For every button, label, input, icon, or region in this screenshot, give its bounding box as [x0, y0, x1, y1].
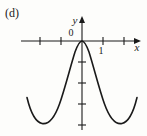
graph-plot: 0 1 y x: [0, 0, 147, 136]
figure-panel: (d) 0 1 y x: [0, 0, 147, 136]
y-axis-label: y: [72, 14, 78, 26]
x-axis-label: x: [134, 41, 140, 53]
y-axis-arrow-icon: [79, 16, 85, 23]
origin-label: 0: [69, 27, 74, 38]
x-tick-label-1: 1: [99, 45, 104, 56]
